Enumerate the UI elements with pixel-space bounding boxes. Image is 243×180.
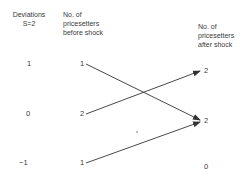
- transition-arrows: [0, 0, 243, 180]
- stray-dot: [136, 131, 137, 132]
- arrow-top-to-middle: [86, 64, 200, 120]
- arrow-bottom-to-middle: [86, 122, 200, 163]
- arrow-middle-to-top: [86, 71, 200, 114]
